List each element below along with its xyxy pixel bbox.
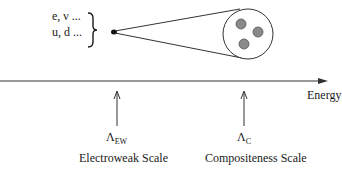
c-scale-symbol: ΛC	[237, 131, 251, 148]
ew-scale-symbol: ΛEW	[106, 131, 127, 148]
axis-arrowhead	[318, 78, 328, 84]
point-particle	[111, 30, 117, 35]
lepton-label: e, ν ...	[52, 10, 81, 23]
ew-scale-label: Electroweak Scale	[79, 152, 168, 165]
ew-subscript: EW	[115, 137, 127, 146]
constituent	[236, 19, 246, 29]
brace	[88, 13, 97, 47]
quark-label: u, d ...	[52, 26, 82, 39]
composite-particle	[223, 9, 273, 59]
constituent	[239, 39, 249, 49]
lambda-symbol: Λ	[106, 130, 115, 144]
ew-scale-arrow	[114, 91, 120, 126]
energy-axis-label: Energy	[307, 89, 341, 102]
c-scale-label: Compositeness Scale	[205, 152, 307, 165]
zoom-cone-top	[115, 9, 240, 31]
c-scale-arrow	[241, 91, 247, 126]
constituent	[253, 27, 263, 37]
c-subscript: C	[246, 137, 251, 146]
lambda-symbol: Λ	[237, 130, 246, 144]
